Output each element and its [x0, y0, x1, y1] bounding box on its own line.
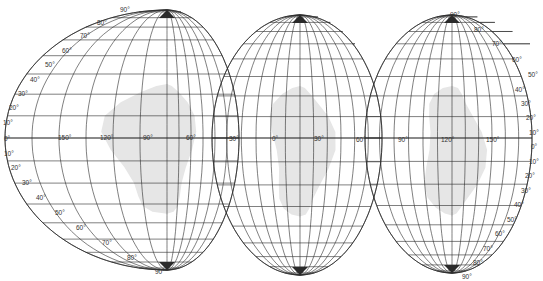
longitude-label: 120° [441, 136, 455, 143]
latitude-label-right: 40° [514, 201, 524, 208]
latitude-label-left: 90° [155, 268, 165, 275]
latitude-label-left: 30° [18, 90, 28, 97]
latitude-label-right: 90° [450, 11, 460, 18]
interrupted-world-map: 150°120°90°60°30°0°30°60°90°120°150°90°8… [0, 0, 543, 281]
latitude-label-right: 30° [521, 187, 531, 194]
latitude-label-right: 90° [462, 273, 472, 280]
longitude-label: 150° [58, 134, 72, 141]
latitude-label-left: 20° [11, 164, 21, 171]
latitude-label-right: 10° [529, 158, 539, 165]
latitude-label-right: 70° [492, 40, 502, 47]
latitude-label-left: 80° [97, 19, 107, 26]
latitude-label-left: 70° [102, 239, 112, 246]
latitude-label-left: 10° [3, 119, 13, 126]
latitude-label-right: 20° [526, 114, 536, 121]
latitude-label-right: 50° [507, 216, 517, 223]
latitude-label-left: 40° [30, 76, 40, 83]
latitude-label-left: 0° [4, 135, 11, 142]
longitude-label: 120° [100, 134, 114, 141]
latitude-label-left: 60° [62, 47, 72, 54]
land-masses [101, 84, 487, 217]
latitude-label-left: 40° [36, 194, 46, 201]
latitude-label-left: 50° [55, 209, 65, 216]
latitude-label-right: 60° [512, 56, 522, 63]
latitude-label-right: 60° [495, 230, 505, 237]
latitude-label-left: 30° [22, 179, 32, 186]
latitude-label-left: 70° [80, 32, 90, 39]
longitude-label: 30° [229, 135, 239, 142]
longitude-label: 150° [486, 136, 500, 143]
latitude-label-left: 80° [127, 254, 137, 261]
longitude-label: 90° [398, 136, 408, 143]
land-shape [101, 84, 196, 214]
latitude-label-left: 10° [4, 150, 14, 157]
latitude-label-right: 40° [515, 86, 525, 93]
longitude-label: 60° [186, 134, 196, 141]
latitude-label-right: 0° [531, 143, 538, 150]
latitude-label-right: 30° [521, 100, 531, 107]
latitude-label-right: 70° [483, 245, 493, 252]
longitude-label: 30° [314, 135, 324, 142]
latitude-label-right: 10° [529, 129, 539, 136]
latitude-label-right: 80° [474, 26, 484, 33]
latitude-label-left: 60° [76, 224, 86, 231]
latitude-label-left: 50° [45, 61, 55, 68]
longitude-label: 90° [143, 134, 153, 141]
longitude-label: 60° [356, 136, 366, 143]
latitude-label-left: 90° [120, 6, 130, 13]
land-shape [270, 86, 336, 217]
latitude-label-right: 20° [525, 172, 535, 179]
latitude-label-right: 50° [528, 71, 538, 78]
latitude-label-left: 20° [9, 104, 19, 111]
latitude-label-right: 80° [473, 259, 483, 266]
longitude-label: 0° [272, 135, 279, 142]
